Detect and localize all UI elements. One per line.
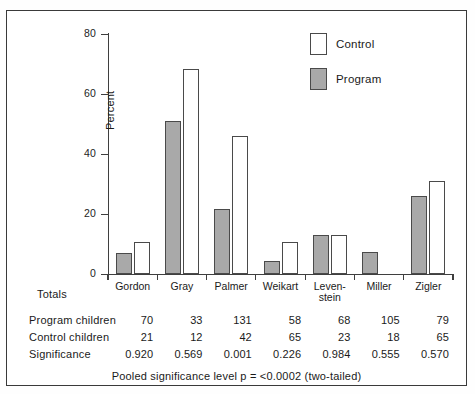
row-label-program-children: Program children [29,314,116,326]
table-cell: 12 [153,331,202,343]
bar-control [331,235,347,274]
y-axis-title: Percent [104,91,116,130]
bar-control [183,69,199,274]
table-cell: 23 [301,331,350,343]
legend-swatch-program-icon [310,68,327,90]
table-cell: 65 [252,331,301,343]
y-axis-tick [101,34,108,35]
table-cell: 0.001 [203,348,252,360]
y-axis-tick-label: 20 [66,207,96,219]
bar-program [313,235,329,274]
table-cell: 79 [400,314,449,326]
bar-program [362,252,378,274]
bar-program [411,196,427,274]
x-axis-tick [107,274,108,280]
table-cell: 0.920 [104,348,153,360]
x-axis-tick [403,274,404,280]
y-axis-tick-label: 0 [66,267,96,279]
table-cell: 0.226 [252,348,301,360]
x-axis-tick [354,274,355,280]
bar-control [282,242,298,274]
row-label-significance: Significance [29,348,91,360]
x-axis-category-label: Leven-stein [305,281,354,303]
footnote-pooled-significance: Pooled significance level p = <0.0002 (t… [7,370,466,382]
y-axis-tick-label: 80 [66,27,96,39]
x-axis-category-label: Palmer [207,281,256,292]
totals-corner-label: Totals [37,288,67,300]
x-axis-tick [452,274,453,280]
table-cell: 70 [104,314,153,326]
x-axis-tick [305,274,306,280]
bar-program [214,209,230,274]
y-axis-tick [101,154,108,155]
table-cell: 21 [104,331,153,343]
table-cell: 0.555 [350,348,399,360]
bar-program [165,121,181,274]
legend-label-control: Control [336,38,374,50]
x-axis-category-label: Zigler [404,281,453,292]
bar-control [429,181,445,274]
legend-item-control: Control [310,33,430,55]
y-axis-tick-label: 60 [66,87,96,99]
legend: Control Program [310,33,430,103]
legend-item-program: Program [310,68,430,90]
table-cell: 0.570 [400,348,449,360]
legend-label-program: Program [336,73,382,85]
bar-control [232,136,248,274]
x-axis-category-label: Gordon [108,281,157,292]
x-axis-tick [206,274,207,280]
table-cell: 131 [203,314,252,326]
bar-program [264,261,280,274]
table-cell: 68 [301,314,350,326]
legend-swatch-control-icon [310,33,327,55]
figure-container: Percent 020406080GordonGrayPalmerWeikart… [0,0,475,394]
y-axis-tick [101,214,108,215]
table-cell: 65 [400,331,449,343]
table-cell: 105 [350,314,399,326]
x-axis-category-label: Weikart [256,281,305,292]
row-label-control-children: Control children [29,331,109,343]
y-axis-tick-label: 40 [66,147,96,159]
x-axis-tick [157,274,158,280]
bar-program [116,253,132,274]
y-axis-tick [101,94,108,95]
table-cell: 0.984 [301,348,350,360]
table-cell: 58 [252,314,301,326]
table-cell: 33 [153,314,202,326]
table-cell: 42 [203,331,252,343]
x-axis-line [108,274,453,275]
bar-control [134,242,150,274]
x-axis-category-label: Gray [157,281,206,292]
x-axis-tick [255,274,256,280]
table-cell: 0.569 [153,348,202,360]
x-axis-category-label: Miller [354,281,403,292]
table-cell: 18 [350,331,399,343]
figure-frame: Percent 020406080GordonGrayPalmerWeikart… [6,10,467,386]
